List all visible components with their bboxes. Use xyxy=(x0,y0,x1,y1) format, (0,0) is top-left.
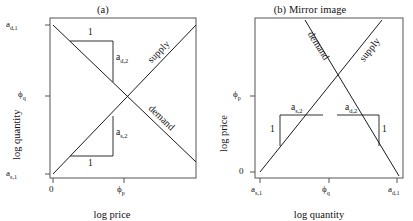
panel-a-x-axis-title: log price xyxy=(22,209,202,220)
panel-b-demand-slope-triangle xyxy=(337,115,379,146)
panel-a: (a) ad,1 ϕq as,1 xyxy=(0,0,206,221)
panel-b-y-axis-title: log price xyxy=(218,115,229,152)
panel-b: (b) Mirror image ϕp 0 as xyxy=(207,0,413,221)
panel-a-supply-run-label: 1 xyxy=(88,158,93,168)
panel-b-xlabel-as1: as,1 xyxy=(251,184,262,196)
panel-a-xlabel-phip: ϕp xyxy=(117,184,125,196)
panel-b-ylabel-phip: ϕp xyxy=(233,89,241,101)
panel-a-ylabel-as1: as,1 xyxy=(6,168,17,180)
panel-a-ylabel-phiq: ϕq xyxy=(18,89,26,101)
panel-a-demand-rise-label: ad,2 xyxy=(116,52,128,64)
panel-a-plot xyxy=(0,0,206,221)
panel-a-y-axis-title: log quantity xyxy=(11,110,22,160)
panel-b-demand-rise-label: 1 xyxy=(382,124,387,134)
panel-a-ylabel-ad1: ad,1 xyxy=(6,19,18,31)
panel-b-xlabel-ad1: ad,1 xyxy=(388,184,400,196)
panel-b-ylabel-zero: 0 xyxy=(239,166,244,176)
panel-b-supply-rise-label: 1 xyxy=(270,124,275,134)
figure-supply-demand-log: (a) ad,1 ϕq as,1 xyxy=(0,0,413,221)
panel-b-xlabel-phiq: ϕq xyxy=(322,184,330,196)
panel-b-demand-run-label: ad,2 xyxy=(345,102,357,114)
panel-a-xlabel-zero: 0 xyxy=(49,184,54,194)
panel-b-supply-run-label: as,2 xyxy=(291,102,303,114)
panel-b-x-axis-title: log quantity xyxy=(229,209,409,220)
panel-a-supply-curve xyxy=(53,25,196,174)
panel-a-supply-rise-label: as,2 xyxy=(116,127,128,139)
panel-a-demand-curve xyxy=(53,25,196,162)
panel-a-demand-run-label: 1 xyxy=(88,27,93,37)
